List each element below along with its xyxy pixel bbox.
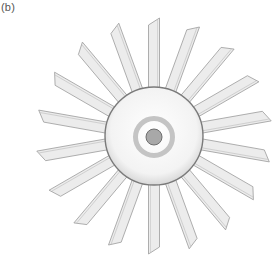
fan-blade	[149, 18, 160, 96]
center-axle	[146, 129, 162, 145]
fan-blade	[37, 138, 116, 161]
fan-diagram	[0, 0, 276, 258]
fan-blade	[149, 176, 160, 254]
fan-blade	[192, 111, 271, 134]
